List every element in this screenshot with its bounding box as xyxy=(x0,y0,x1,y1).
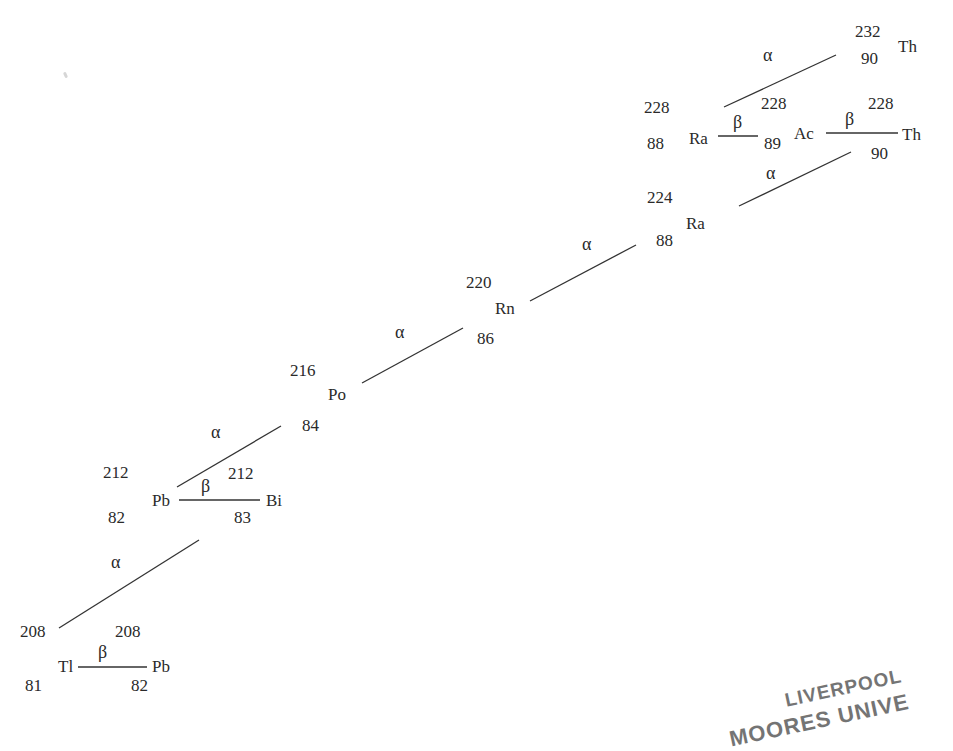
beta-label-ra228: β xyxy=(733,113,742,131)
rn220-symbol: Rn xyxy=(495,300,515,317)
pb212-mass: 212 xyxy=(103,464,129,481)
ac228-symbol: Ac xyxy=(794,125,814,142)
ra224-symbol: Ra xyxy=(686,215,705,232)
alpha-line-bi212-tl208 xyxy=(59,540,199,628)
tl208-mass: 208 xyxy=(20,623,46,640)
beta-label-pb212: β xyxy=(201,477,210,495)
beta-label-ac228: β xyxy=(845,110,854,128)
pb212-symbol: Pb xyxy=(152,492,170,509)
po216-atomic: 84 xyxy=(302,417,319,434)
ra228-mass: 228 xyxy=(644,99,670,116)
th228-atomic: 90 xyxy=(871,145,888,162)
th232-mass: 232 xyxy=(855,23,881,40)
tl208-atomic: 81 xyxy=(25,677,42,694)
th228-mass: 228 xyxy=(868,95,894,112)
alpha-label-bi212: α xyxy=(111,553,120,571)
rn220-atomic: 86 xyxy=(477,330,494,347)
th232-atomic: 90 xyxy=(861,50,878,67)
ra224-atomic: 88 xyxy=(656,232,673,249)
beta-label-tl208: β xyxy=(98,643,107,661)
alpha-line-th228-ra224 xyxy=(739,152,851,206)
rn220-mass: 220 xyxy=(466,274,492,291)
alpha-label-th228: α xyxy=(766,164,775,182)
alpha-label-th232: α xyxy=(763,46,772,64)
ac228-mass: 228 xyxy=(761,95,787,112)
ra224-mass: 224 xyxy=(647,189,673,206)
po216-symbol: Po xyxy=(328,386,346,403)
pb212-atomic: 82 xyxy=(108,509,125,526)
th232-symbol: Th xyxy=(898,38,917,55)
tl208-symbol: Tl xyxy=(58,658,73,675)
pb208-mass: 208 xyxy=(115,623,141,640)
alpha-label-rn220: α xyxy=(395,323,404,341)
ac228-atomic: 89 xyxy=(764,135,781,152)
pb208-symbol: Pb xyxy=(152,658,170,675)
alpha-label-ra224: α xyxy=(582,235,591,253)
alpha-line-rn220-po216 xyxy=(362,328,463,383)
bi212-symbol: Bi xyxy=(266,492,282,509)
pb208-atomic: 82 xyxy=(131,677,148,694)
po216-mass: 216 xyxy=(290,362,316,379)
bi212-atomic: 83 xyxy=(234,509,251,526)
bi212-mass: 212 xyxy=(228,465,254,482)
alpha-label-po216: α xyxy=(211,423,220,441)
ra228-symbol: Ra xyxy=(689,130,708,147)
ra228-atomic: 88 xyxy=(647,135,664,152)
th228-symbol: Th xyxy=(902,126,921,143)
